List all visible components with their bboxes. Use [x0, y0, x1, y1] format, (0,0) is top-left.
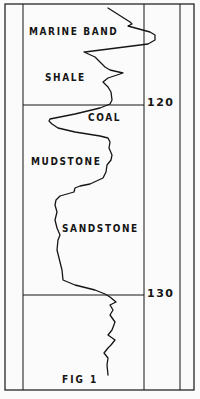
label-shale: SHALE	[45, 72, 86, 84]
depth-label-120: 120	[147, 97, 174, 109]
log-frame-and-trace	[0, 0, 200, 399]
label-coal: COAL	[88, 112, 121, 124]
label-marine-band: MARINE BAND	[29, 26, 118, 38]
depth-label-130: 130	[147, 288, 174, 300]
well-log-figure: MARINE BAND SHALE COAL MUDSTONE SANDSTON…	[0, 0, 200, 399]
label-sandstone: SANDSTONE	[62, 223, 139, 235]
figure-caption: FIG 1	[62, 374, 98, 386]
label-mudstone: MUDSTONE	[31, 156, 102, 168]
log-curve	[49, 8, 155, 375]
